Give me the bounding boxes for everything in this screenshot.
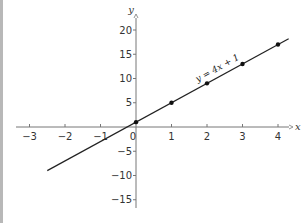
x-tick-label: 3 (239, 131, 245, 142)
y-tick-label: 10 (119, 73, 132, 84)
x-tick-label: −3 (22, 131, 37, 142)
x-tick-label: 2 (204, 131, 210, 142)
x-tick-label: 1 (168, 131, 174, 142)
x-tick-label: 0 (130, 131, 136, 142)
data-point (205, 81, 209, 85)
y-tick-label: −10 (111, 170, 132, 181)
y-axis-label: y (127, 4, 134, 15)
series-line (47, 39, 288, 171)
data-point (169, 101, 173, 105)
x-tick-label: −2 (58, 131, 73, 142)
y-tick-label: 15 (119, 49, 132, 60)
x-axis-arrow-icon (289, 125, 293, 129)
x-tick-label: −1 (93, 131, 108, 142)
line-chart: xy−3−2−101234−15−10−55101520y = 4x + 1 (0, 0, 307, 223)
x-axis-label: x (295, 121, 301, 132)
data-point (134, 120, 138, 124)
data-point (240, 62, 244, 66)
x-tick-label: 4 (275, 131, 281, 142)
y-tick-label: −15 (111, 194, 132, 205)
data-point (276, 42, 280, 46)
y-tick-label: 5 (126, 97, 132, 108)
y-axis-arrow-icon (134, 14, 138, 18)
y-tick-label: 20 (119, 25, 132, 36)
y-tick-label: −5 (117, 146, 132, 157)
